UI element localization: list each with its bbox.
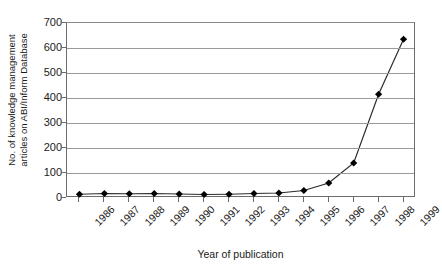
x-tick-label: 1994 bbox=[292, 203, 317, 228]
y-tick-label: 600 bbox=[36, 42, 62, 53]
x-tick-label: 1999 bbox=[416, 203, 441, 228]
x-tick-label: 1990 bbox=[192, 203, 217, 228]
y-axis-title-line-1: No. of knowledge management bbox=[6, 33, 18, 167]
x-tick-label: 1995 bbox=[317, 203, 342, 228]
y-axis-title-line-2: articles on ABI/Inform Database bbox=[18, 33, 30, 167]
x-tick-label: 1987 bbox=[117, 203, 142, 228]
y-tick-label: 500 bbox=[36, 67, 62, 78]
gridline bbox=[67, 48, 414, 49]
y-tick-label: 100 bbox=[36, 167, 62, 178]
data-point-marker bbox=[300, 187, 307, 194]
x-tick-label: 1986 bbox=[92, 203, 117, 228]
gridline bbox=[67, 173, 414, 174]
x-tick-label: 1996 bbox=[342, 203, 367, 228]
gridline bbox=[67, 98, 414, 99]
series-line bbox=[67, 23, 416, 198]
knowledge-management-articles-line-chart: No. of knowledge management articles on … bbox=[0, 0, 442, 270]
data-point-marker bbox=[375, 91, 382, 98]
x-tick-label: 1989 bbox=[167, 203, 192, 228]
y-axis-tick-labels: 0100200300400500600700 bbox=[36, 0, 62, 270]
gridline bbox=[67, 123, 414, 124]
x-axis-title: Year of publication bbox=[66, 248, 415, 260]
x-axis-tick-labels: 1986198719881989199019911992199319941995… bbox=[66, 197, 415, 247]
series-polyline bbox=[79, 39, 403, 194]
y-axis-title: No. of knowledge management articles on … bbox=[0, 0, 36, 200]
y-tick-label: 300 bbox=[36, 117, 62, 128]
y-tick-label: 700 bbox=[36, 17, 62, 28]
gridline bbox=[67, 148, 414, 149]
y-tick-label: 0 bbox=[36, 192, 62, 203]
y-tick-label: 400 bbox=[36, 92, 62, 103]
data-point-marker bbox=[400, 36, 407, 43]
x-tick-label: 1998 bbox=[391, 203, 416, 228]
plot-area bbox=[66, 22, 415, 197]
y-tick-label: 200 bbox=[36, 142, 62, 153]
gridline bbox=[67, 73, 414, 74]
x-tick-label: 1993 bbox=[267, 203, 292, 228]
x-tick-label: 1991 bbox=[217, 203, 242, 228]
data-point-marker bbox=[275, 189, 282, 196]
x-tick-label: 1997 bbox=[367, 203, 392, 228]
x-tick-label: 1992 bbox=[242, 203, 267, 228]
x-tick-label: 1988 bbox=[142, 203, 167, 228]
